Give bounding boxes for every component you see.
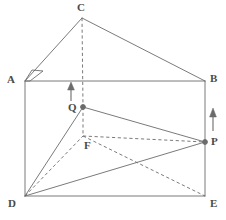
edge-C-Q	[82, 18, 83, 107]
arrow-right	[210, 108, 217, 131]
edge-A-C	[25, 18, 82, 81]
geometry-figure: C A B Q F P D E	[0, 0, 226, 220]
vertex-label-E: E	[210, 198, 217, 209]
edge-F-E	[83, 136, 205, 196]
edge-D-Q	[25, 107, 83, 196]
vertex-label-C: C	[77, 2, 85, 13]
vertex-label-P: P	[211, 136, 218, 147]
vertex-label-Q: Q	[68, 102, 77, 113]
vertex-label-D: D	[8, 198, 16, 209]
arrow-left	[68, 82, 75, 101]
geometry-canvas	[0, 0, 226, 220]
point-marker-P	[203, 140, 208, 145]
edge-C-B	[82, 18, 205, 81]
solid-edges-group	[25, 18, 205, 196]
vertex-label-A: A	[7, 74, 15, 85]
vertex-label-B: B	[210, 73, 217, 84]
edge-D-P	[25, 142, 205, 196]
vertex-label-F: F	[84, 140, 91, 151]
point-marker-Q	[81, 105, 86, 110]
